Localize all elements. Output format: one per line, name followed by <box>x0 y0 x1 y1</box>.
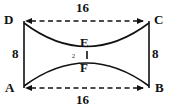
vertex-label-D: D <box>4 13 13 26</box>
vertex-label-C: C <box>154 13 163 26</box>
point-label-F: F <box>80 61 88 74</box>
vertex-label-A: A <box>5 81 14 94</box>
dimension-label-left: 8 <box>12 47 19 60</box>
dimension-label-ef: 2 <box>72 53 75 59</box>
point-label-E: E <box>80 36 89 49</box>
geometry-figure: D C A B E F 16 16 8 8 2 <box>0 0 170 108</box>
dimension-label-right: 8 <box>152 47 159 60</box>
dimension-label-bottom: 16 <box>76 93 89 106</box>
vertex-label-B: B <box>155 81 164 94</box>
dimension-label-top: 16 <box>76 1 89 14</box>
